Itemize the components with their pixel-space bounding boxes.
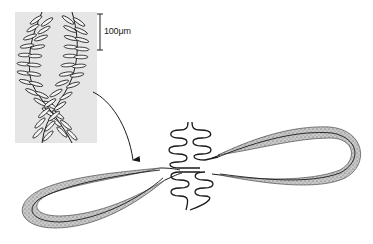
right-lateral-loop — [218, 127, 361, 185]
lampbrush-chromosome-figure: 100μm — [0, 0, 373, 244]
diagram-drawing — [0, 0, 373, 244]
pointer-arrow — [93, 92, 133, 160]
left-lateral-loop — [22, 168, 165, 228]
inset-chromosome-pair — [17, 12, 89, 143]
scale-bar — [97, 14, 103, 50]
chromomere-axis-loops — [160, 122, 220, 210]
